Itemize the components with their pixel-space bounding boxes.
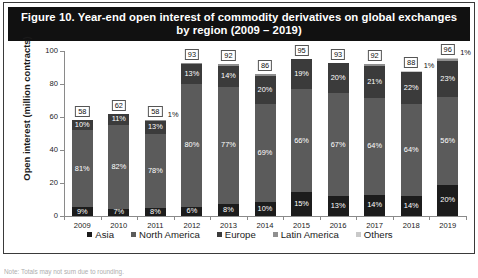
y-axis-tick-mark <box>60 84 64 85</box>
bar-segment-europe: 13% <box>181 64 202 84</box>
x-axis-tick-mark <box>320 216 321 220</box>
bar-segment-europe: 20% <box>328 63 349 94</box>
y-axis-tick-mark <box>60 117 64 118</box>
bar-segment-label: 22% <box>404 84 419 92</box>
legend-label: North America <box>139 229 200 240</box>
outside-percent-label: 1% <box>460 49 471 57</box>
bar-segment-label: 21% <box>367 78 382 86</box>
bar-segment-north-america: 80% <box>181 84 202 207</box>
stacked-bar[interactable]: 11%82%7% <box>108 114 129 216</box>
bar-segment-north-america: 82% <box>108 125 129 209</box>
bar-segment-europe: 10% <box>72 120 93 130</box>
legend-label: Europe <box>225 229 256 240</box>
stacked-bar[interactable]: 13%80%6% <box>181 63 202 216</box>
y-axis-title: Open interest (million contracts) <box>21 29 32 189</box>
stacked-bar[interactable]: 1%13%78%8% <box>145 120 166 216</box>
legend-item-north-america[interactable]: North America <box>131 229 200 240</box>
bar-segment-label: 10% <box>75 121 90 129</box>
bar-segment-asia: 8% <box>218 204 239 216</box>
stacked-bar[interactable]: 1%22%64%14% <box>401 71 422 216</box>
bar-segment-north-america: 64% <box>364 98 385 195</box>
legend-item-others[interactable]: Others <box>356 229 393 240</box>
bar-segment-label: 10% <box>258 205 273 213</box>
bar-segment-label: 20% <box>258 86 273 94</box>
bar-group[interactable]: 13%80%6%93 <box>181 51 202 216</box>
bar-total-label: 96 <box>441 44 455 55</box>
bar-segment-label: 67% <box>331 141 346 149</box>
y-axis-tick-mark <box>60 150 64 151</box>
stacked-bar[interactable]: 14%77%8% <box>218 64 239 216</box>
bar-segment-label: 20% <box>440 196 455 204</box>
bar-segment-north-america: 77% <box>218 87 239 204</box>
bar-total-label: 88 <box>404 57 418 68</box>
bar-group[interactable]: 10%81%9%58 <box>72 51 93 216</box>
bar-segment-asia: 10% <box>255 202 276 216</box>
legend-item-europe[interactable]: Europe <box>217 229 256 240</box>
bar-segment-asia: 14% <box>364 195 385 216</box>
y-axis-tick-label: 60 <box>32 113 58 121</box>
x-axis-tick-mark <box>101 216 102 220</box>
bar-group[interactable]: 14%77%8%92 <box>218 51 239 216</box>
outside-percent-label: 1% <box>424 62 435 70</box>
bar-segment-asia: 14% <box>401 196 422 216</box>
bar-total-label: 93 <box>331 49 345 60</box>
bar-group[interactable]: 1%13%78%8%581% <box>145 51 166 216</box>
bar-total-label: 58 <box>148 106 162 117</box>
legend-item-latin-america[interactable]: Latin America <box>273 229 339 240</box>
legend-label: Asia <box>95 229 114 240</box>
bar-group[interactable]: 11%82%7%62 <box>108 51 129 216</box>
y-axis-tick-label: 100 <box>32 47 58 55</box>
bar-segment-label: 9% <box>77 208 88 216</box>
bar-segment-europe: 22% <box>401 72 422 104</box>
x-axis-tick-mark <box>137 216 138 220</box>
legend-item-asia[interactable]: Asia <box>87 229 114 240</box>
bar-segment-asia: 6% <box>181 207 202 216</box>
stacked-bar[interactable]: 10%81%9% <box>72 120 93 216</box>
x-axis-tick-mark <box>283 216 284 220</box>
bar-segment-label: 13% <box>185 70 200 78</box>
bar-segment-label: 20% <box>331 74 346 82</box>
stacked-bar[interactable]: 1%23%56%20% <box>437 58 458 216</box>
stacked-bar[interactable]: 20%69%10% <box>255 74 276 216</box>
x-axis-tick-mark <box>174 216 175 220</box>
x-axis-tick-mark <box>64 216 65 220</box>
bar-segment-label: 23% <box>440 75 455 83</box>
bar-group[interactable]: 20%69%10%86 <box>255 51 276 216</box>
x-axis-tick-mark <box>429 216 430 220</box>
bar-segment-label: 64% <box>367 142 382 150</box>
stacked-bar[interactable]: 20%67%13% <box>328 63 349 216</box>
stacked-bar[interactable]: 21%64%14% <box>364 64 385 216</box>
bar-group[interactable]: 19%66%15%95 <box>291 51 312 216</box>
bar-segment-label: 8% <box>150 208 161 216</box>
figure-footnote: Note: Totals may not sum due to rounding… <box>4 268 404 278</box>
bar-segment-north-america: 78% <box>145 134 166 209</box>
bar-segment-label: 78% <box>148 167 163 175</box>
bar-segment-label: 77% <box>221 141 236 149</box>
bar-group[interactable]: 1%23%56%20%961% <box>437 51 458 216</box>
chart-plot-area: Open interest (million contracts) 020406… <box>4 43 476 253</box>
bar-segment-europe: 11% <box>108 114 129 125</box>
x-axis-tick-mark <box>210 216 211 220</box>
y-axis-tick-label: 20 <box>32 179 58 187</box>
bar-segment-europe: 14% <box>218 66 239 87</box>
bar-segment-label: 11% <box>112 115 126 123</box>
stacked-bar[interactable]: 19%66%15% <box>291 59 312 216</box>
bar-segment-label: 82% <box>111 163 126 171</box>
bar-segment-label: 19% <box>294 70 309 78</box>
bar-group[interactable]: 1%22%64%14%881% <box>401 51 422 216</box>
bar-segment-label: 15% <box>294 200 309 208</box>
bar-segment-label: 13% <box>148 123 163 131</box>
x-axis-tick-mark <box>356 216 357 220</box>
y-axis-line <box>64 51 65 216</box>
bar-segment-asia: 15% <box>291 192 312 216</box>
bar-group[interactable]: 21%64%14%92 <box>364 51 385 216</box>
bar-segment-label: 64% <box>404 146 419 154</box>
figure-title-line-2: by region (2009 – 2019) <box>176 24 301 36</box>
bar-segment-label: 56% <box>440 137 455 145</box>
legend-label: Latin America <box>281 229 339 240</box>
bar-group[interactable]: 20%67%13%93 <box>328 51 349 216</box>
legend-swatch-icon <box>217 232 222 237</box>
figure-title: Figure 10. Year-end open interest of com… <box>21 11 457 38</box>
bar-segment-label: 81% <box>75 165 90 173</box>
bar-segment-europe: 20% <box>255 76 276 104</box>
